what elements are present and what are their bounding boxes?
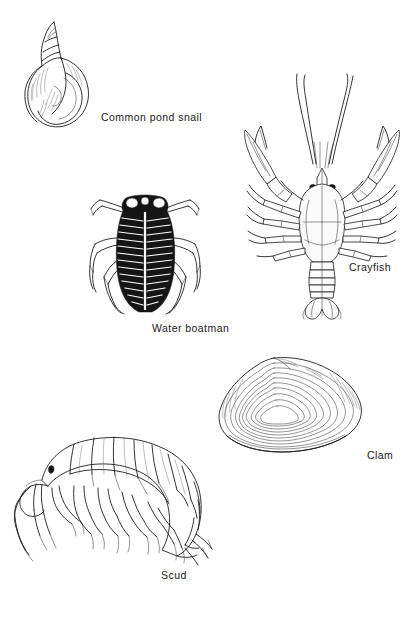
label-common-pond-snail: Common pond snail xyxy=(101,112,202,123)
label-crayfish: Crayfish xyxy=(349,262,391,273)
scud-illustration xyxy=(12,428,220,566)
label-scud: Scud xyxy=(161,570,187,581)
pond-snail-illustration xyxy=(14,18,104,138)
label-clam: Clam xyxy=(367,450,393,461)
clam-illustration xyxy=(216,352,364,466)
illustration-plate: Common pond snail xyxy=(0,0,416,619)
label-water-boatman: Water boatman xyxy=(152,323,229,334)
water-boatman-illustration xyxy=(82,188,210,316)
